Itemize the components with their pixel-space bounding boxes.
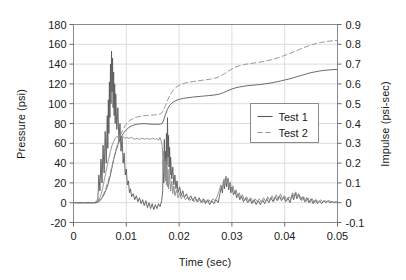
y-axis-left-tick-label: 40 bbox=[54, 157, 66, 169]
x-axis-tick-label: 0 bbox=[70, 230, 76, 242]
y-axis-left-tick-label: 0 bbox=[60, 197, 66, 209]
y-axis-left-title: Pressure (psi) bbox=[15, 59, 27, 189]
y-axis-right-tick-label: 0.7 bbox=[346, 58, 361, 70]
y-axis-left-ticks: -20020406080100120140160180 bbox=[48, 19, 73, 229]
y-axis-right-tick-label: 0.6 bbox=[346, 78, 361, 90]
y-axis-right-tick-label: 0.5 bbox=[346, 98, 361, 110]
x-axis-title: Time (sec) bbox=[73, 256, 337, 268]
y-axis-left-tick-label: 60 bbox=[54, 137, 66, 149]
legend-label-1[interactable]: Test 1 bbox=[279, 111, 308, 123]
chart-figure: -20020406080100120140160180 -0.100.10.20… bbox=[0, 0, 406, 280]
y-axis-right-tick-label: 0.3 bbox=[346, 137, 361, 149]
y-axis-left-tick-label: 140 bbox=[48, 58, 66, 70]
y-axis-right-tick-label: 0.8 bbox=[346, 38, 361, 50]
x-axis-ticks: 00.010.020.030.040.05 bbox=[70, 223, 348, 242]
y-axis-right-title: Impulse (psi-sec) bbox=[379, 59, 391, 189]
chart-legend[interactable]: Test 1Test 2 bbox=[251, 104, 319, 143]
y-axis-left-tick-label: 180 bbox=[48, 19, 66, 31]
y-axis-left-tick-label: -20 bbox=[51, 217, 67, 229]
x-axis-tick-label: 0.04 bbox=[274, 230, 295, 242]
x-axis-tick-label: 0.01 bbox=[116, 230, 137, 242]
x-axis-tick-label: 0.05 bbox=[327, 230, 348, 242]
legend-label-2[interactable]: Test 2 bbox=[279, 127, 308, 139]
y-axis-left-tick-label: 80 bbox=[54, 118, 66, 130]
y-axis-left-tick-label: 20 bbox=[54, 177, 66, 189]
y-axis-left-tick-label: 160 bbox=[48, 38, 66, 50]
y-axis-right-tick-label: 0.1 bbox=[346, 177, 361, 189]
y-axis-right-tick-label: -0.1 bbox=[346, 217, 365, 229]
y-axis-right-tick-label: 0 bbox=[346, 197, 352, 209]
y-axis-left-tick-label: 100 bbox=[48, 98, 66, 110]
x-axis-tick-label: 0.02 bbox=[168, 230, 189, 242]
y-axis-right-tick-label: 0.4 bbox=[346, 118, 361, 130]
chart-canvas: -20020406080100120140160180 -0.100.10.20… bbox=[0, 0, 406, 280]
x-axis-tick-label: 0.03 bbox=[221, 230, 242, 242]
y-axis-right-tick-label: 0.9 bbox=[346, 19, 361, 31]
y-axis-right-ticks: -0.100.10.20.30.40.50.60.70.80.9 bbox=[338, 19, 365, 229]
y-axis-right-tick-label: 0.2 bbox=[346, 157, 361, 169]
y-axis-left-tick-label: 120 bbox=[48, 78, 66, 90]
